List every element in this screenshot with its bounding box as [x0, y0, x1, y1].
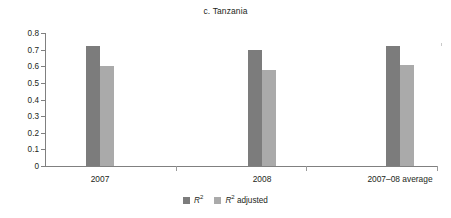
y-axis-tick-label: 0.1 [28, 145, 39, 154]
bar-group [248, 33, 276, 166]
x-axis-label: 2008 [253, 174, 272, 184]
y-axis-tick-label: 0.7 [28, 45, 39, 54]
category-separator-tick [176, 166, 177, 171]
category-separator-tick [437, 166, 438, 171]
legend-label: R2 [194, 196, 203, 205]
x-axis-label: 2007 [91, 174, 110, 184]
y-axis-tick-mark [41, 83, 45, 84]
category-separator-tick [306, 166, 307, 171]
bar [400, 65, 414, 166]
y-axis-tick-label: 0.6 [28, 62, 39, 71]
chart-title: c. Tanzania [0, 6, 451, 16]
y-axis-tick-label: 0.8 [28, 29, 39, 38]
legend-item[interactable]: R2 adjusted [214, 196, 268, 205]
bar-group [86, 33, 114, 166]
y-axis-tick-label: 0.5 [28, 78, 39, 87]
y-axis-tick-mark [41, 116, 45, 117]
y-axis-tick-label: 0.4 [28, 95, 39, 104]
legend-label: R2 adjusted [225, 196, 268, 205]
chart-figure: c. Tanzania 00.10.20.30.40.50.60.70.8 20… [0, 0, 451, 218]
y-axis-tick-mark [41, 133, 45, 134]
y-axis-tick-mark [41, 100, 45, 101]
x-axis-label: 2007–08 average [367, 174, 432, 184]
y-axis-tick-label: 0.3 [28, 112, 39, 121]
scan-artifact-speck [441, 43, 442, 46]
bar [86, 46, 100, 166]
y-axis-tick-label: 0.2 [28, 128, 39, 137]
y-axis-tick-label: 0 [34, 162, 39, 171]
y-axis-tick-mark [41, 149, 45, 150]
plot-area: 00.10.20.30.40.50.60.70.8 [45, 33, 437, 166]
bar-group [386, 33, 414, 166]
legend-swatch [214, 197, 221, 204]
y-axis-tick-mark [41, 50, 45, 51]
bar [100, 66, 114, 166]
bar [262, 70, 276, 166]
y-axis-tick-mark [41, 33, 45, 34]
legend-swatch [183, 197, 190, 204]
legend-item[interactable]: R2 [183, 196, 203, 205]
chart-legend: R2R2 adjusted [0, 196, 451, 205]
y-axis-tick-mark [41, 166, 45, 167]
bar [248, 50, 262, 166]
y-axis-tick-mark [41, 66, 45, 67]
bar [386, 46, 400, 166]
x-axis-line [45, 166, 437, 167]
